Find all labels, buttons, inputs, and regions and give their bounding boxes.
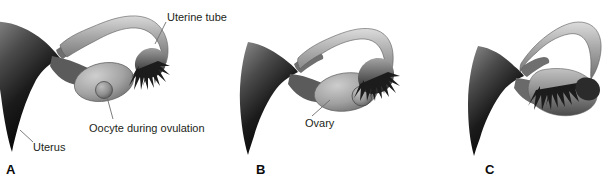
panel-b-illustration <box>210 0 416 182</box>
panel-b: Ovary B <box>210 0 416 182</box>
leader-uterus <box>20 130 33 142</box>
panel-letter-b: B <box>256 163 266 176</box>
panel-a: Uterine tube Oocyte during ovulation Ute… <box>0 0 206 182</box>
panel-c-illustration <box>410 0 616 182</box>
panel-letter-c: C <box>485 163 495 176</box>
panel-letter-a: A <box>6 163 16 176</box>
oocyte-shape <box>96 82 113 99</box>
ovulation-figure: Uterine tube Oocyte during ovulation Ute… <box>0 0 616 182</box>
label-oocyte-during-ovulation: Oocyte during ovulation <box>89 122 205 134</box>
label-uterus: Uterus <box>33 141 65 153</box>
uterus-shape <box>240 42 298 155</box>
panel-a-illustration <box>0 0 206 182</box>
uterus-shape <box>468 46 524 156</box>
panel-c: C <box>410 0 616 182</box>
label-ovary: Ovary <box>305 117 334 129</box>
uterus-shape <box>0 22 60 152</box>
